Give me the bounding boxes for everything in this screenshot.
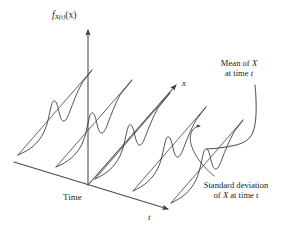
figure-canvas <box>0 0 288 237</box>
x-axis-line <box>88 85 176 185</box>
baseline-t4 <box>133 107 206 191</box>
mean-curve-group <box>207 85 256 149</box>
baseline-t1 <box>18 70 92 155</box>
x-axis-label: x <box>182 78 186 89</box>
stddev-leader-group <box>190 126 214 176</box>
stddev-leader-line <box>190 126 214 176</box>
mean-annotation-line1: Mean of X <box>198 58 280 68</box>
density-axis-label-subscript: X(t) <box>55 13 66 20</box>
t-axis-label: t <box>148 212 151 223</box>
density-axis-label: fX(t)(x) <box>52 10 76 22</box>
axes-group <box>14 30 176 209</box>
mean-of-x-curve <box>207 85 256 149</box>
stddev-annotation-line2: of X at time t <box>186 190 286 200</box>
stddev-annotation: Standard deviation of X at time t <box>186 180 286 200</box>
t-axis-line <box>14 162 168 209</box>
mean-annotation-line2: at time t <box>198 68 280 78</box>
stddev-annotation-line1: Standard deviation <box>186 180 286 190</box>
density-axis-label-argument: (x) <box>65 10 76 20</box>
time-axis-label: Time <box>63 192 82 203</box>
mean-annotation: Mean of X at time t <box>198 58 280 78</box>
stochastic-process-figure: fX(t)(x) Time x t Mean of X at time t St… <box>0 0 288 237</box>
